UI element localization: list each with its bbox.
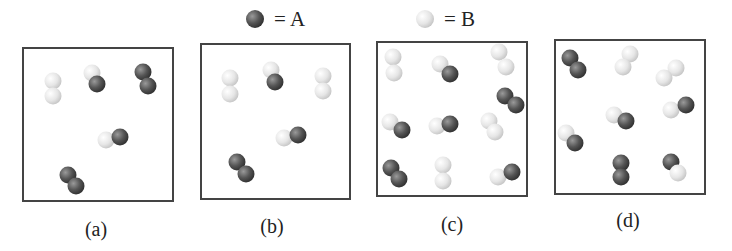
molecule-ab — [432, 56, 459, 83]
molecule-b2 — [491, 44, 515, 76]
molecule-layer — [0, 0, 732, 251]
atom-a-icon — [394, 122, 411, 139]
molecule-a2 — [383, 160, 408, 188]
atom-b-icon — [663, 102, 680, 119]
atom-a-icon — [504, 164, 521, 181]
molecule-ab — [382, 114, 411, 139]
atom-a-icon — [678, 97, 695, 114]
molecule-b2 — [435, 157, 452, 190]
molecule-ab — [84, 65, 106, 93]
atom-a-icon — [290, 127, 307, 144]
atom-a-icon — [508, 97, 525, 114]
atom-b-icon — [435, 173, 452, 190]
atom-b-icon — [315, 68, 332, 85]
atom-a-icon — [442, 116, 459, 133]
atom-b-icon — [276, 130, 293, 147]
atom-b-icon — [670, 165, 687, 182]
molecule-ab — [606, 107, 635, 130]
molecule-a2 — [497, 88, 525, 114]
molecule-a2 — [613, 155, 630, 186]
molecule-a2 — [562, 50, 587, 79]
molecule-ab — [98, 129, 129, 149]
atom-a-icon — [391, 171, 408, 188]
atom-b-icon — [615, 59, 632, 76]
molecule-ab — [263, 62, 284, 91]
atom-b-icon — [385, 49, 402, 66]
atom-b-icon — [656, 70, 673, 87]
molecule-b2 — [45, 73, 62, 105]
atom-b-icon — [491, 44, 508, 61]
atom-a-icon — [567, 135, 584, 152]
molecule-a2 — [135, 64, 157, 95]
atom-a-icon — [570, 62, 587, 79]
atom-b-icon — [45, 73, 62, 90]
atom-b-icon — [222, 70, 239, 87]
molecule-b2 — [481, 113, 504, 141]
molecule-b2 — [656, 60, 685, 87]
atom-a-icon — [68, 178, 85, 195]
molecule-ab — [558, 125, 584, 152]
atom-a-icon — [613, 169, 630, 186]
molecule-ab — [429, 116, 459, 135]
molecule-ab — [663, 154, 687, 182]
atom-a-icon — [442, 66, 459, 83]
atom-b-icon — [435, 157, 452, 174]
atom-b-icon — [498, 59, 515, 76]
atom-b-icon — [98, 132, 115, 149]
atom-a-icon — [112, 129, 129, 146]
atom-a-icon — [140, 78, 157, 95]
atom-a-icon — [267, 74, 284, 91]
atom-b-icon — [222, 86, 239, 103]
molecule-ab — [276, 127, 307, 147]
atom-a-icon — [618, 113, 635, 130]
molecule-ab — [663, 97, 695, 119]
molecule-b2 — [615, 46, 639, 76]
atom-a-icon — [89, 76, 106, 93]
molecule-a2 — [229, 154, 255, 183]
atom-b-icon — [386, 65, 403, 82]
molecule-b2 — [315, 68, 332, 100]
atom-b-icon — [487, 124, 504, 141]
molecule-ab — [490, 164, 521, 186]
atom-b-icon — [45, 88, 62, 105]
molecule-a2 — [60, 167, 85, 195]
atom-b-icon — [315, 83, 332, 100]
molecule-b2 — [222, 70, 239, 103]
atom-a-icon — [238, 166, 255, 183]
molecule-b2 — [385, 49, 403, 82]
